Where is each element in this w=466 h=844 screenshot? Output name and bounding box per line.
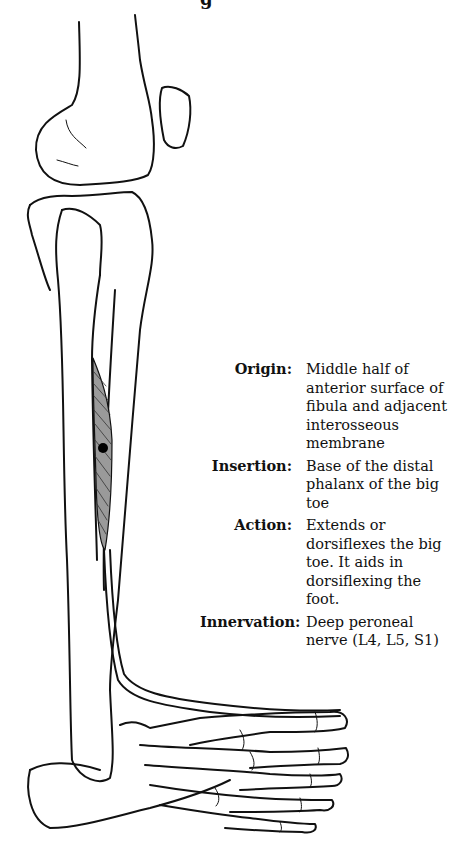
origin-label: Origin:: [200, 360, 306, 453]
patella-icon: [160, 87, 191, 148]
origin-marker: [98, 443, 108, 453]
action-label: Action:: [200, 516, 306, 609]
innervation-row: Innervation: Deep peroneal nerve (L4, L5…: [200, 613, 466, 650]
origin-value: Middle half of anterior surface of fibul…: [306, 360, 456, 453]
insertion-label: Insertion:: [200, 457, 306, 513]
innervation-value: Deep peroneal nerve (L4, L5, S1): [306, 613, 456, 650]
insertion-row: Insertion: Base of the distal phalanx of…: [200, 457, 466, 513]
foot-skeleton-icon: [28, 712, 348, 833]
femur-icon: [36, 15, 154, 185]
tibia-icon: [28, 192, 153, 781]
action-row: Action: Extends or dorsiflexes the big t…: [200, 516, 466, 609]
muscle-info-panel: Origin: Middle half of anterior surface …: [200, 360, 466, 654]
innervation-label: Innervation:: [200, 613, 306, 650]
origin-row: Origin: Middle half of anterior surface …: [200, 360, 466, 453]
action-value: Extends or dorsiflexes the big toe. It a…: [306, 516, 456, 609]
insertion-value: Base of the distal phalanx of the big to…: [306, 457, 456, 513]
